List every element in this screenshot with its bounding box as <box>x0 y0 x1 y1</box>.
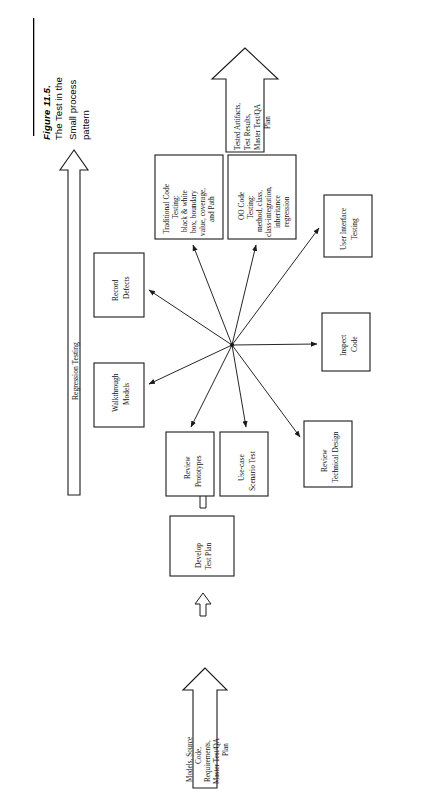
hub-connectors <box>149 228 319 437</box>
use-case-scenario-test-line-1: Use-case <box>238 454 247 481</box>
regression-testing-label: Regression Testing <box>72 342 81 400</box>
inspect-code-line-1: Inspect <box>340 335 349 356</box>
inspect-code-line-2: Code <box>351 336 360 352</box>
hub-node <box>230 343 234 347</box>
develop-test-plan-line-1: Develop <box>195 543 204 568</box>
review-prototypes-line-2: Prototypes <box>195 455 204 487</box>
walkthrough-models-line-1: Walkthrough <box>112 374 121 412</box>
regression-testing-arrow <box>60 150 88 495</box>
walkthrough-models-line-2: Models <box>123 383 132 405</box>
link-hub-record-defects <box>149 290 232 345</box>
link-hub-walkthrough-models <box>149 345 232 384</box>
user-interface-testing-line-2: Testing <box>351 218 360 240</box>
link-hub-traditional-code-testing <box>193 245 232 345</box>
figure-caption: Figure 11.5. The Test in the Small proce… <box>41 0 93 140</box>
input-arrow-line-5: Plan <box>222 743 232 756</box>
input-to-develop-arrow <box>195 593 211 616</box>
user-interface-testing-line-1: User Interface <box>340 208 349 250</box>
caption-rule <box>33 18 34 136</box>
link-hub-user-interface-testing <box>232 228 319 345</box>
output-arrow-line-4: Plan <box>264 116 274 129</box>
output-arrow-line-1: Tested Artifacts, <box>234 103 244 150</box>
link-hub-review-technical-design <box>232 345 300 437</box>
figure-number: Figure 11.5. <box>41 0 52 140</box>
record-defects-line-2: Defects <box>123 276 132 299</box>
link-hub-use-case-scenario-test <box>232 345 246 427</box>
link-hub-review-prototypes <box>191 345 232 427</box>
use-case-scenario-test-line-2: Scenario Test <box>249 451 258 491</box>
figure-caption-line-1: The Test in the <box>53 0 66 140</box>
link-hub-inspect-code <box>232 344 317 345</box>
develop-test-plan-line-2: Test Plan <box>205 543 214 570</box>
output-arrow-line-2: Test Results, <box>244 113 254 150</box>
review-technical-design-line-2: Technical Design <box>332 432 341 483</box>
link-hub-oo-code-testing <box>232 245 256 345</box>
figure-canvas: Figure 11.5. The Test in the Small proce… <box>0 0 440 799</box>
review-prototypes-line-1: Review <box>184 456 193 479</box>
review-technical-design-line-1: Review <box>321 449 330 472</box>
oo-code-testing-line-6: regression <box>283 197 292 227</box>
figure-caption-line-3: pattern <box>80 0 93 140</box>
output-arrow-line-3: Master Test/QA <box>254 104 264 150</box>
traditional-code-testing-line-6: and Path <box>208 196 217 222</box>
figure-caption-line-2: Small process <box>67 0 80 140</box>
record-defects-line-1: Record <box>112 280 121 301</box>
